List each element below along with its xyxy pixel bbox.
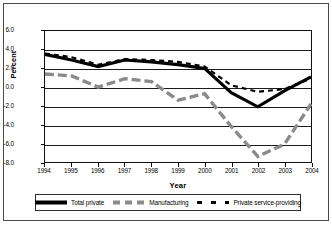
legend-swatch-total-private bbox=[35, 198, 67, 207]
x-tick-mark bbox=[285, 163, 286, 167]
x-tick-mark bbox=[44, 163, 45, 167]
y-tick-label: -6.0 bbox=[0, 141, 14, 147]
x-tick-mark bbox=[178, 163, 179, 167]
y-tick-label: -8.0 bbox=[0, 160, 14, 166]
legend-swatch-private-service-providing bbox=[197, 198, 229, 207]
legend-label-total-private: Total private bbox=[71, 199, 104, 206]
x-axis-title: Year bbox=[44, 181, 312, 190]
legend-item-total-private: Total private bbox=[35, 198, 104, 207]
y-tick-label: -2.0 bbox=[0, 103, 14, 109]
y-tick-label: 2.0 bbox=[0, 65, 14, 71]
x-tick-mark bbox=[232, 163, 233, 167]
series-line-manufacturing bbox=[45, 74, 311, 156]
y-tick-label: 6.0 bbox=[0, 27, 14, 33]
x-tick-mark bbox=[124, 163, 125, 167]
y-tick-label: 0.0 bbox=[0, 84, 14, 90]
y-tick-label: -4.0 bbox=[0, 122, 14, 128]
plot-wrapper: 1994199519961997199819992000200120022003… bbox=[44, 30, 312, 163]
chart-figure: Percent 6.04.02.00.0-2.0-4.0-6.0-8.0 199… bbox=[0, 0, 332, 226]
series-line-private-service-providing bbox=[45, 53, 311, 91]
chart-legend: Total private Manufacturing Private serv… bbox=[35, 194, 301, 211]
legend-item-private-service-providing: Private service-providing bbox=[197, 198, 300, 207]
x-tick-mark bbox=[151, 163, 152, 167]
x-tick-mark bbox=[71, 163, 72, 167]
x-tick-mark bbox=[205, 163, 206, 167]
legend-label-manufacturing: Manufacturing bbox=[149, 199, 188, 206]
y-tick-label: 4.0 bbox=[0, 46, 14, 52]
legend-swatch-manufacturing bbox=[113, 198, 145, 207]
series-lines bbox=[45, 31, 311, 162]
x-tick-label: 2004 bbox=[295, 167, 329, 174]
x-tick-mark bbox=[258, 163, 259, 167]
plot-area bbox=[44, 30, 312, 163]
legend-item-manufacturing: Manufacturing bbox=[113, 198, 188, 207]
x-tick-mark bbox=[98, 163, 99, 167]
x-tick-mark bbox=[312, 163, 313, 167]
legend-label-private-service-providing: Private service-providing bbox=[233, 199, 300, 206]
